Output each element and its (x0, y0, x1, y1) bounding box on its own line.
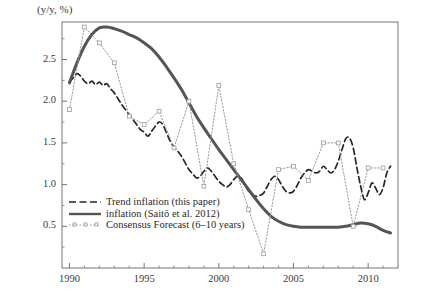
legend-key-solid-icon (68, 208, 102, 219)
legend-item-saito-inflation: inflation (Saitō et al. 2012) (68, 208, 245, 220)
y-tick-label: 1.5 (26, 136, 56, 147)
y-tick-label: 2.5 (26, 53, 56, 64)
x-tick-label: 2005 (273, 273, 313, 284)
legend-key-dashed-icon (68, 196, 102, 207)
legend-item-consensus-forecast: Consensus Forecast (6–10 years) (68, 219, 245, 231)
x-tick-label: 1995 (124, 273, 164, 284)
chart-legend: Trend inflation (this paper) inflation (… (68, 196, 245, 231)
y-tick-label: 0.5 (26, 219, 56, 230)
legend-label-consensus-forecast: Consensus Forecast (6–10 years) (106, 219, 245, 231)
chart-plot-area (0, 0, 430, 303)
legend-key-dotted-icon (68, 219, 102, 230)
inflation-chart-figure: (y/y, %) 0.51.01.52.02.5 199019952000200… (0, 0, 430, 303)
legend-label-saito-inflation: inflation (Saitō et al. 2012) (106, 208, 219, 220)
legend-label-trend-inflation: Trend inflation (this paper) (106, 196, 220, 208)
x-tick-label: 2000 (199, 273, 239, 284)
x-tick-label: 1990 (49, 273, 89, 284)
y-tick-label: 1.0 (26, 178, 56, 189)
legend-item-trend-inflation: Trend inflation (this paper) (68, 196, 245, 208)
y-tick-label: 2.0 (26, 94, 56, 105)
x-tick-label: 2010 (348, 273, 388, 284)
